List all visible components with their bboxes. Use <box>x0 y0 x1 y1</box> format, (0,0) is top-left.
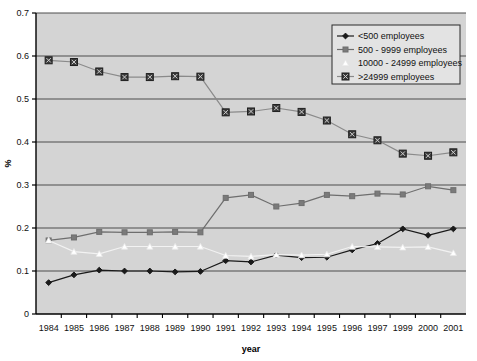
x-tick-label: 1987 <box>115 323 135 333</box>
x-tick-label: 1999 <box>393 323 413 333</box>
data-point-marker <box>426 184 431 189</box>
data-point-marker <box>146 74 153 81</box>
data-point-marker <box>45 57 52 64</box>
y-tick-label: 0.4 <box>16 137 29 147</box>
x-tick-label: 1988 <box>140 323 160 333</box>
data-point-marker <box>70 59 77 66</box>
data-point-marker <box>71 235 76 240</box>
data-point-marker <box>425 152 432 159</box>
data-point-marker <box>298 108 305 115</box>
legend-item-3[interactable]: 10000 - 24999 employees <box>342 58 462 68</box>
data-point-marker <box>343 47 348 52</box>
x-tick-label: 2001 <box>443 323 463 333</box>
x-axis-title: year <box>242 344 261 354</box>
y-tick-label: 0.6 <box>16 51 29 61</box>
x-tick-label: 1991 <box>216 323 236 333</box>
data-point-marker <box>173 229 178 234</box>
data-point-marker <box>172 73 179 80</box>
data-point-marker <box>122 230 127 235</box>
data-point-marker <box>121 74 128 81</box>
chart-container: 00.10.20.30.40.50.60.7%19841985198619871… <box>0 0 477 361</box>
data-point-marker <box>399 150 406 157</box>
data-point-marker <box>342 73 349 80</box>
y-tick-label: 0.1 <box>16 266 29 276</box>
x-tick-label: 1989 <box>165 323 185 333</box>
data-point-marker <box>274 204 279 209</box>
x-tick-label: 1994 <box>292 323 312 333</box>
x-tick-label: 1986 <box>89 323 109 333</box>
data-point-marker <box>248 108 255 115</box>
data-point-marker <box>299 201 304 206</box>
data-point-marker <box>323 117 330 124</box>
data-point-marker <box>197 73 204 80</box>
x-tick-label: 1990 <box>190 323 210 333</box>
data-point-marker <box>324 192 329 197</box>
x-tick-label: 1992 <box>241 323 261 333</box>
line-chart: 00.10.20.30.40.50.60.7%19841985198619871… <box>0 0 477 361</box>
x-tick-label: 1996 <box>342 323 362 333</box>
legend-label: >24999 employees <box>358 72 435 82</box>
data-point-marker <box>97 229 102 234</box>
data-point-marker <box>147 230 152 235</box>
data-point-marker <box>375 191 380 196</box>
x-tick-label: 1984 <box>39 323 59 333</box>
data-point-marker <box>223 195 228 200</box>
y-tick-label: 0 <box>24 309 29 319</box>
data-point-marker <box>249 192 254 197</box>
x-tick-label: 1993 <box>266 323 286 333</box>
x-tick-label: 1985 <box>64 323 84 333</box>
legend-label: 10000 - 24999 employees <box>358 58 463 68</box>
data-point-marker <box>450 149 457 156</box>
legend-label: 500 - 9999 employees <box>358 45 448 55</box>
y-tick-label: 0.5 <box>16 94 29 104</box>
data-point-marker <box>400 192 405 197</box>
y-tick-label: 0.2 <box>16 223 29 233</box>
data-point-marker <box>451 188 456 193</box>
data-point-marker <box>374 137 381 144</box>
x-axis-ticks: 1984198519861987198819891990199119921993… <box>39 314 464 333</box>
data-point-marker <box>349 131 356 138</box>
x-tick-label: 1995 <box>317 323 337 333</box>
y-tick-label: 0.7 <box>16 8 29 18</box>
y-axis-ticks: 00.10.20.30.40.50.60.7 <box>16 8 36 319</box>
data-point-marker <box>273 105 280 112</box>
x-tick-label: 2000 <box>418 323 438 333</box>
y-tick-label: 0.3 <box>16 180 29 190</box>
legend: <500 employees500 - 9999 employees10000 … <box>332 25 463 84</box>
data-point-marker <box>350 194 355 199</box>
data-point-marker <box>96 68 103 75</box>
data-point-marker <box>198 230 203 235</box>
x-tick-label: 1997 <box>367 323 387 333</box>
data-point-marker <box>222 109 229 116</box>
legend-label: <500 employees <box>358 31 425 41</box>
y-axis-title: % <box>3 159 13 167</box>
